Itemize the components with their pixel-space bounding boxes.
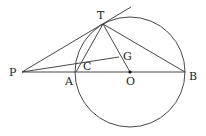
segment-to (103, 24, 130, 72)
tangent-line-pt (22, 7, 131, 72)
segment-tb (103, 24, 185, 72)
label-t: T (97, 9, 105, 22)
label-o: O (126, 75, 135, 88)
label-a: A (64, 75, 74, 88)
label-p: P (9, 66, 17, 79)
geometry-diagram: P A O B T G C (0, 0, 206, 136)
center-point-o (128, 70, 131, 73)
diagram-canvas: P A O B T G C (0, 0, 206, 136)
label-g: G (123, 50, 132, 63)
segment-pg (22, 57, 119, 72)
label-c: C (83, 60, 91, 73)
label-b: B (189, 70, 197, 83)
